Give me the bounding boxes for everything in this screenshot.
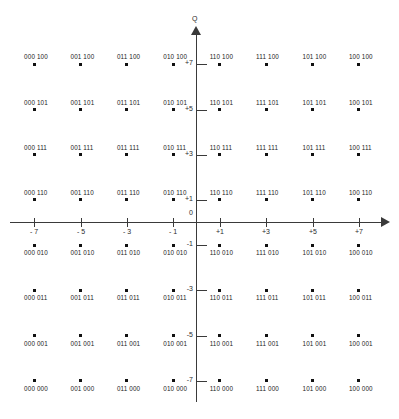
constellation-point-label: 001 101 bbox=[71, 99, 95, 106]
constellation-point-label: 111 111 bbox=[256, 144, 278, 151]
constellation-point-label: 110 110 bbox=[210, 189, 233, 196]
constellation-point-label: 000 101 bbox=[24, 99, 48, 106]
constellation-point bbox=[357, 63, 360, 66]
constellation-point bbox=[125, 198, 128, 201]
q-tick-label: +3 bbox=[175, 150, 193, 157]
constellation-point bbox=[357, 244, 360, 247]
constellation-point bbox=[33, 289, 36, 292]
constellation-point-label: 010 011 bbox=[163, 294, 186, 301]
constellation-point bbox=[79, 244, 82, 247]
constellation-point bbox=[33, 108, 36, 111]
i-tick-mark bbox=[266, 218, 267, 227]
constellation-point bbox=[311, 198, 314, 201]
constellation-point-label: 110 010 bbox=[210, 249, 233, 256]
constellation-point bbox=[265, 108, 268, 111]
constellation-point-label: 011 111 bbox=[117, 144, 139, 151]
constellation-diagram: Q 0 - 7- 5- 3- 1+1+3+5+7 +7+5+3+1-1-3-5-… bbox=[0, 0, 399, 419]
i-tick-mark bbox=[220, 218, 221, 227]
i-tick-label: +7 bbox=[347, 228, 371, 235]
constellation-point bbox=[33, 244, 36, 247]
constellation-point-label: 101 011 bbox=[303, 294, 326, 301]
q-tick-mark bbox=[196, 64, 207, 65]
constellation-point-label: 100 100 bbox=[349, 53, 373, 60]
i-tick-mark bbox=[173, 218, 174, 227]
constellation-point-label: 101 010 bbox=[303, 249, 327, 256]
constellation-point-label: 100 111 bbox=[349, 144, 372, 151]
i-tick-mark bbox=[313, 218, 314, 227]
constellation-point-label: 110 101 bbox=[210, 99, 233, 106]
q-tick-mark bbox=[196, 336, 207, 337]
constellation-point bbox=[125, 289, 128, 292]
constellation-point bbox=[218, 108, 221, 111]
constellation-point bbox=[311, 334, 314, 337]
constellation-point bbox=[125, 244, 128, 247]
constellation-point-label: 001 001 bbox=[71, 340, 95, 347]
q-tick-mark bbox=[196, 200, 207, 201]
i-axis-arrow-icon bbox=[381, 217, 390, 227]
constellation-point-label: 100 010 bbox=[349, 249, 373, 256]
i-tick-label: - 7 bbox=[22, 228, 46, 235]
constellation-point-label: 000 111 bbox=[24, 144, 47, 151]
constellation-point bbox=[172, 198, 175, 201]
q-axis-line bbox=[196, 28, 197, 402]
q-tick-label: -7 bbox=[175, 376, 193, 383]
constellation-point bbox=[218, 289, 221, 292]
constellation-point bbox=[33, 63, 36, 66]
constellation-point bbox=[172, 289, 175, 292]
constellation-point bbox=[125, 108, 128, 111]
constellation-point-label: 001 000 bbox=[71, 385, 95, 392]
constellation-point bbox=[79, 334, 82, 337]
constellation-point bbox=[79, 153, 82, 156]
constellation-point bbox=[125, 379, 128, 382]
constellation-point-label: 111 001 bbox=[256, 340, 279, 347]
constellation-point bbox=[172, 108, 175, 111]
constellation-point bbox=[125, 63, 128, 66]
constellation-point-label: 100 001 bbox=[349, 340, 373, 347]
constellation-point bbox=[33, 198, 36, 201]
constellation-point bbox=[79, 198, 82, 201]
constellation-point-label: 100 101 bbox=[349, 99, 373, 106]
constellation-point bbox=[172, 63, 175, 66]
constellation-point bbox=[33, 379, 36, 382]
i-tick-mark bbox=[359, 218, 360, 227]
q-axis-label: Q bbox=[192, 15, 198, 22]
constellation-point-label: 010 000 bbox=[163, 385, 187, 392]
constellation-point bbox=[218, 244, 221, 247]
constellation-point-label: 111 000 bbox=[256, 385, 279, 392]
constellation-point bbox=[79, 63, 82, 66]
constellation-point-label: 110 000 bbox=[210, 385, 233, 392]
constellation-point bbox=[311, 153, 314, 156]
constellation-point-label: 011 011 bbox=[117, 294, 140, 301]
q-tick-mark bbox=[196, 155, 207, 156]
constellation-point-label: 010 001 bbox=[163, 340, 187, 347]
q-tick-mark bbox=[196, 381, 207, 382]
i-tick-label: - 5 bbox=[69, 228, 93, 235]
constellation-point-label: 001 110 bbox=[71, 189, 94, 196]
constellation-point bbox=[265, 379, 268, 382]
constellation-point-label: 000 001 bbox=[24, 340, 48, 347]
constellation-point bbox=[311, 108, 314, 111]
constellation-point-label: 011 001 bbox=[117, 340, 140, 347]
constellation-point bbox=[218, 334, 221, 337]
q-tick-label: -1 bbox=[175, 240, 193, 247]
i-tick-label: - 3 bbox=[115, 228, 139, 235]
constellation-point bbox=[357, 334, 360, 337]
q-tick-mark bbox=[196, 110, 207, 111]
constellation-point-label: 111 110 bbox=[256, 189, 278, 196]
constellation-point-label: 110 001 bbox=[210, 340, 233, 347]
constellation-point bbox=[33, 153, 36, 156]
constellation-point bbox=[265, 244, 268, 247]
q-tick-mark bbox=[196, 245, 207, 246]
constellation-point bbox=[79, 108, 82, 111]
constellation-point-label: 001 111 bbox=[71, 144, 94, 151]
constellation-point-label: 110 100 bbox=[210, 53, 233, 60]
constellation-point-label: 010 101 bbox=[163, 99, 187, 106]
constellation-point bbox=[265, 153, 268, 156]
i-tick-mark bbox=[34, 218, 35, 227]
constellation-point bbox=[265, 334, 268, 337]
constellation-point-label: 000 110 bbox=[24, 189, 47, 196]
constellation-point bbox=[218, 153, 221, 156]
constellation-point bbox=[125, 334, 128, 337]
constellation-point-label: 001 011 bbox=[71, 294, 94, 301]
constellation-point bbox=[218, 198, 221, 201]
